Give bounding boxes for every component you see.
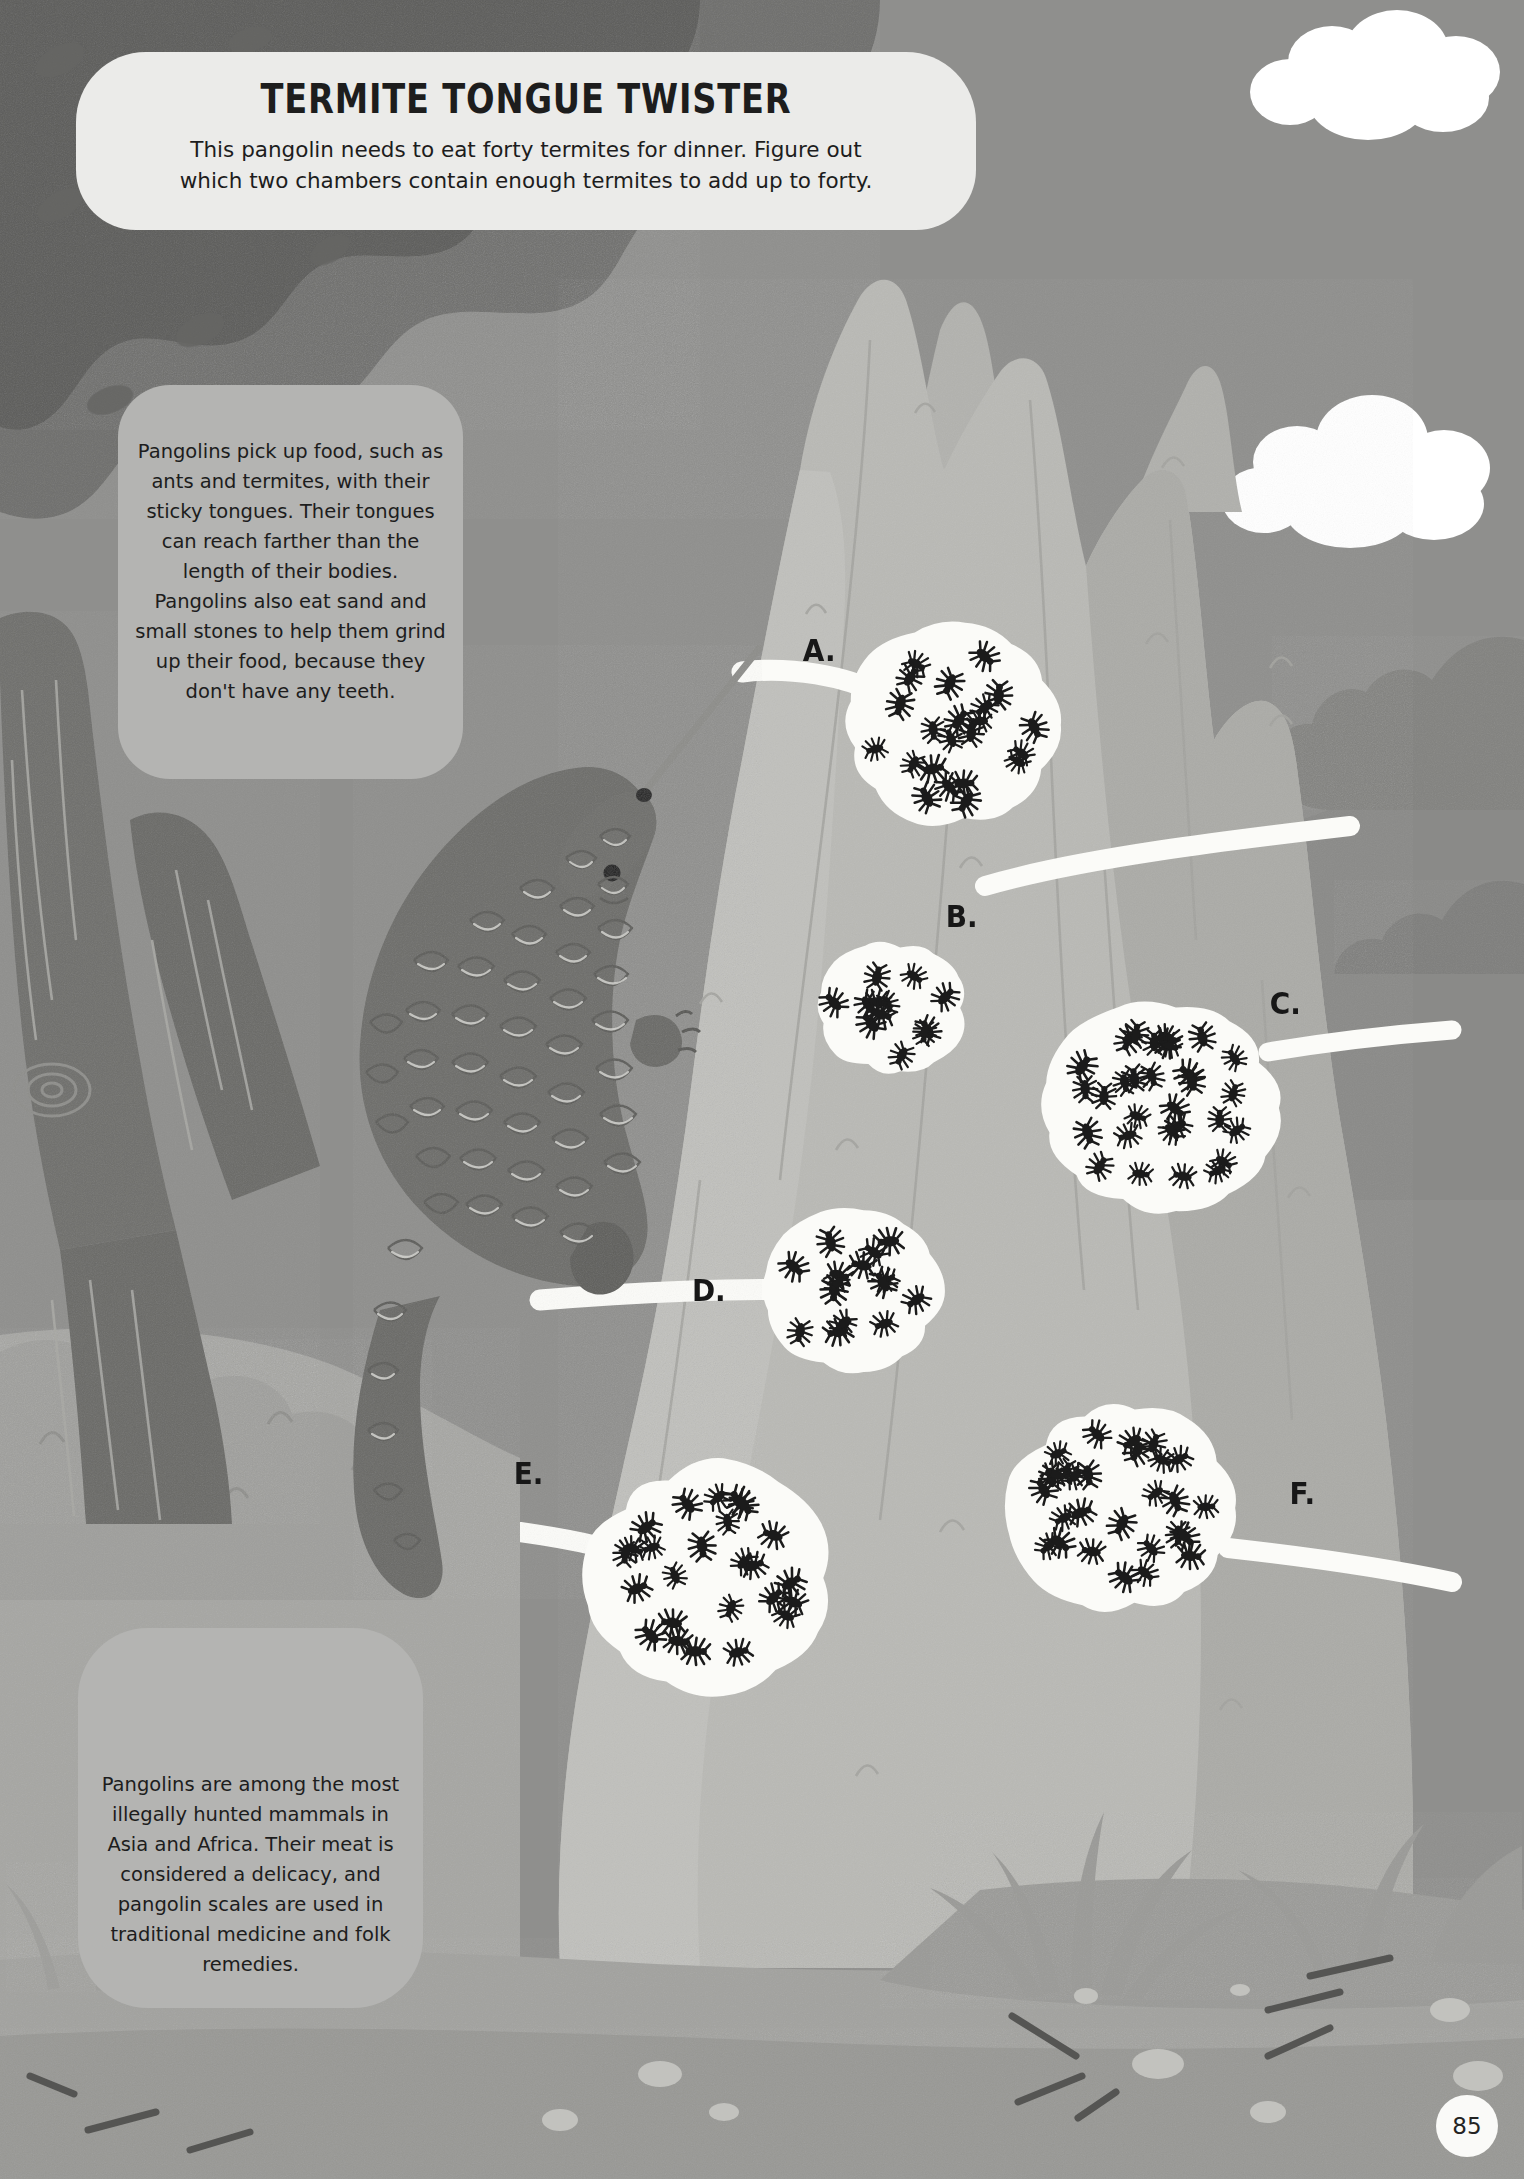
instructions-line-2: which two chambers contain enough termit… xyxy=(116,165,936,196)
chamber-label-a: A. xyxy=(803,632,836,668)
instructions: This pangolin needs to eat forty termite… xyxy=(116,134,936,196)
termite-chamber[interactable] xyxy=(815,942,964,1074)
chamber-label-d: D. xyxy=(692,1272,726,1308)
page-title: TERMITE TONGUE TWISTER xyxy=(190,74,862,124)
chamber-label-e: E. xyxy=(514,1455,544,1491)
info-bubble-tongues: Pangolins pick up food, such as ants and… xyxy=(118,385,463,779)
chamber-label-c: C. xyxy=(1270,985,1301,1021)
pangolin-nose xyxy=(636,788,652,802)
pangolin-foreleg xyxy=(630,1015,682,1067)
info-bubble-tongues-text: Pangolins pick up food, such as ants and… xyxy=(135,440,445,703)
info-bubble-poaching: Pangolins are among the most illegally h… xyxy=(78,1628,423,2008)
chamber-label-b: B. xyxy=(946,898,978,934)
chamber-label-f: F. xyxy=(1289,1475,1315,1511)
page-number-value: 85 xyxy=(1452,2113,1481,2139)
title-bubble: TERMITE TONGUE TWISTER This pangolin nee… xyxy=(76,52,976,230)
page-canvas: TERMITE TONGUE TWISTER This pangolin nee… xyxy=(0,0,1524,2179)
page-number: 85 xyxy=(1436,2095,1498,2157)
info-bubble-poaching-text: Pangolins are among the most illegally h… xyxy=(102,1773,400,1976)
instructions-line-1: This pangolin needs to eat forty termite… xyxy=(116,134,936,165)
